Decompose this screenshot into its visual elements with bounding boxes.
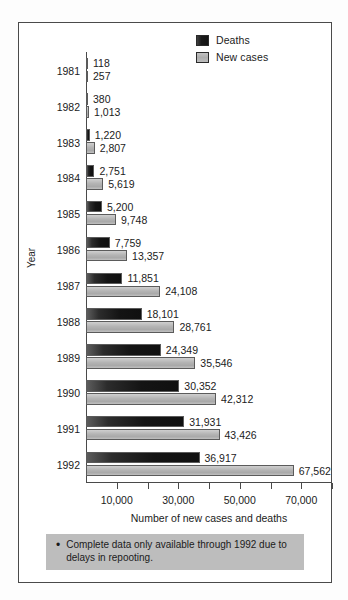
bar-value-label: 67,562 [299,465,331,477]
y-axis-category-label: 1986 [34,244,80,256]
bar-value-label: 28,761 [179,321,211,333]
bar-rect-new-cases [86,357,195,369]
bar-rect-new-cases [86,106,89,118]
bar-value-label: 7,759 [115,237,141,249]
bar-deaths: 18,101 [86,308,179,320]
x-axis-title: Number of new cases and deaths [86,512,332,524]
bar-rect-new-cases [86,71,88,83]
bar-rect-deaths [86,452,200,464]
bar-deaths: 30,352 [86,380,216,392]
bar-value-label: 43,426 [225,429,257,441]
y-axis-category-label: 1981 [34,65,80,77]
bar-value-label: 36,917 [205,452,237,464]
bar-new-cases: 35,546 [86,357,232,369]
y-axis-category-label: 1990 [34,387,80,399]
y-axis-category-label: 1991 [34,423,80,435]
bar-rect-deaths [86,58,88,70]
dark-swatch-icon [196,35,209,46]
bar-value-label: 257 [93,70,111,82]
y-axis-category-label: 1984 [34,172,80,184]
y-axis-category-label: 1983 [34,137,80,149]
x-axis-tick [209,483,210,489]
bar-group: 19831,2202,807 [86,124,332,160]
footnote-box: • Complete data only available through 1… [46,534,304,570]
bar-value-label: 24,108 [165,285,197,297]
bar-group: 198818,10128,761 [86,303,332,339]
x-axis-tick [148,483,149,489]
bar-rect-deaths [86,201,102,213]
bar-rect-new-cases [86,214,116,226]
bar-group: 19823801,013 [86,88,332,124]
bar-value-label: 118 [93,57,110,69]
bar-group: 19855,2009,748 [86,195,332,231]
bar-deaths: 11,851 [86,273,159,285]
bar-rect-new-cases [86,250,127,262]
bar-new-cases: 43,426 [86,429,257,441]
bar-deaths: 24,349 [86,344,198,356]
bar-rect-deaths [86,380,179,392]
bar-new-cases: 9,748 [86,214,147,226]
bar-value-label: 42,312 [221,393,253,405]
bar-rect-new-cases [86,321,174,333]
bar-deaths: 36,917 [86,452,237,464]
bar-deaths: 31,931 [86,416,221,428]
bar-value-label: 35,546 [200,357,232,369]
bar-rect-deaths [86,129,90,141]
plot-area: 198111825719823801,01319831,2202,8071984… [86,52,332,482]
bar-group: 19867,75913,357 [86,231,332,267]
bar-value-label: 5,200 [107,201,133,213]
bar-value-label: 18,101 [147,308,179,320]
x-axis-tick [240,483,241,489]
y-axis-category-label: 1987 [34,280,80,292]
bar-value-label: 380 [93,93,111,105]
x-axis-tick [117,483,118,489]
bar-new-cases: 28,761 [86,321,212,333]
bullet-icon: • [56,539,60,551]
bar-deaths: 118 [86,58,110,70]
bar-new-cases: 5,619 [86,178,135,190]
bar-new-cases: 257 [86,71,111,83]
bar-rect-deaths [86,273,122,285]
bar-new-cases: 2,807 [86,142,126,154]
bar-rect-new-cases [86,393,216,405]
x-axis-tick-label: 50,000 [224,494,256,506]
bar-value-label: 1,013 [94,106,120,118]
bar-deaths: 5,200 [86,201,133,213]
bar-rect-new-cases [86,465,294,477]
y-axis-category-label: 1988 [34,316,80,328]
bar-rect-new-cases [86,429,220,441]
bar-value-label: 24,349 [166,344,198,356]
bar-value-label: 5,619 [108,178,134,190]
bar-rect-deaths [86,93,88,105]
x-axis-tick-label: 10,000 [101,494,133,506]
bar-group: 199030,35242,312 [86,375,332,411]
bar-group: 19842,7515,619 [86,160,332,196]
bar-group: 199131,93143,426 [86,410,332,446]
bar-rect-new-cases [86,286,160,298]
x-axis-tick [332,483,333,489]
bar-group: 198711,85124,108 [86,267,332,303]
y-axis-category-label: 1992 [34,459,80,471]
bar-new-cases: 67,562 [86,465,331,477]
chart-figure: Deaths New cases 10,00030,00050,00070,00… [0,0,348,600]
x-axis-tick [301,483,302,489]
bar-rect-deaths [86,237,110,249]
bar-rect-deaths [86,308,142,320]
legend-label-deaths: Deaths [216,34,250,46]
footnote-text: Complete data only available through 199… [66,539,296,564]
bar-new-cases: 42,312 [86,393,253,405]
bar-rect-new-cases [86,178,103,190]
bar-value-label: 2,807 [100,142,126,154]
bar-value-label: 13,357 [132,250,164,262]
bar-deaths: 1,220 [86,129,121,141]
bar-deaths: 380 [86,93,111,105]
bar-value-label: 2,751 [99,165,125,177]
x-axis-tick [178,483,179,489]
legend-item-deaths: Deaths [196,34,268,46]
x-axis-line [86,482,331,483]
bar-new-cases: 1,013 [86,106,120,118]
bar-new-cases: 24,108 [86,286,197,298]
y-axis-category-label: 1989 [34,352,80,364]
bar-value-label: 31,931 [189,416,221,428]
bar-deaths: 2,751 [86,165,126,177]
